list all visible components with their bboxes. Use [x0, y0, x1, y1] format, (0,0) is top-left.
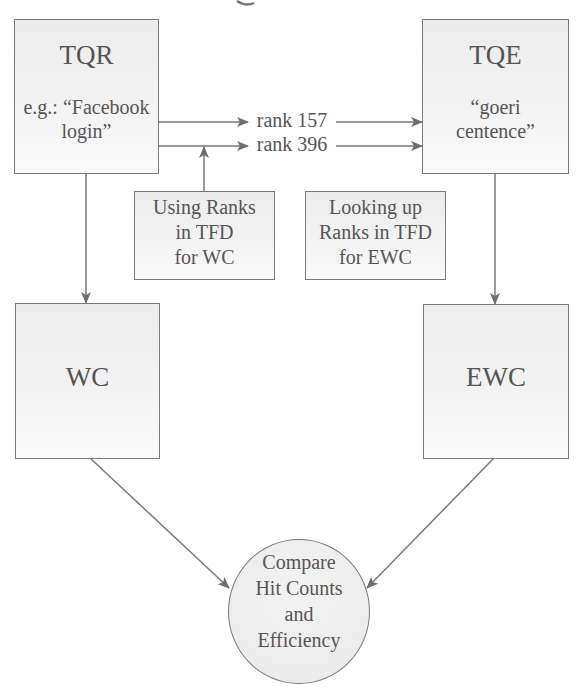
cropped-title-fragment: [237, 1, 254, 5]
arrow-wc-compare: [90, 458, 229, 588]
node-ewc-title: EWC: [423, 362, 569, 393]
node-tqe-example-2: centence”: [422, 120, 569, 143]
node-wc-title: WC: [15, 362, 160, 393]
node-tqr-example-1: e.g.: “Facebook: [14, 96, 159, 119]
node-using-ranks-line3: for WC: [134, 246, 275, 269]
arrow-ewc-compare: [367, 458, 494, 588]
node-tqe-example-1: “goeri: [422, 96, 569, 119]
node-tqr-title: TQR: [14, 40, 159, 71]
node-compare-line1: Compare: [228, 551, 370, 574]
node-looking-up-line3: for EWC: [305, 246, 446, 269]
edge-label-rank396: rank 396: [250, 133, 334, 156]
node-using-ranks-line1: Using Ranks: [134, 196, 275, 219]
node-compare-line4: Efficiency: [228, 629, 370, 652]
node-tqe-title: TQE: [422, 40, 569, 71]
node-compare-line2: Hit Counts: [228, 577, 370, 600]
node-compare-line3: and: [228, 603, 370, 626]
node-looking-up-line1: Looking up: [305, 196, 446, 219]
edge-label-rank157: rank 157: [250, 109, 334, 132]
node-looking-up-line2: Ranks in TFD: [305, 221, 446, 244]
node-using-ranks-line2: in TFD: [134, 221, 275, 244]
node-tqr-example-2: login”: [14, 120, 159, 143]
